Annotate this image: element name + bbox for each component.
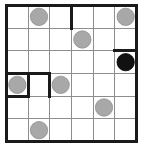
white-pearl-r4c1[interactable]: white pearl at row 4 column 1 bbox=[9, 76, 26, 93]
page-title: Masyu Grid Puzzle bbox=[0, 21, 1, 22]
black-pearl-r3c6[interactable]: black pearl at row 3 column 6 bbox=[117, 54, 134, 71]
pearls-layer[interactable]: white pearl at row 1 column 2white pearl… bbox=[5, 4, 138, 143]
white-pearl-r1c6[interactable]: white pearl at row 1 column 6 bbox=[117, 8, 134, 25]
white-pearl-r5c5[interactable]: white pearl at row 5 column 5 bbox=[95, 99, 112, 116]
white-pearl-r1c2[interactable]: white pearl at row 1 column 2 bbox=[30, 8, 47, 25]
puzzle-board[interactable]: vertical edge right of row 1 column 3hor… bbox=[5, 4, 138, 143]
white-pearl-r6c2[interactable]: white pearl at row 6 column 2 bbox=[30, 122, 47, 139]
white-pearl-r4c3[interactable]: white pearl at row 4 column 3 bbox=[52, 76, 69, 93]
puzzle-screenshot: Masyu Grid Puzzle vertical edge right of… bbox=[0, 0, 143, 150]
white-pearl-r2c4[interactable]: white pearl at row 2 column 4 bbox=[74, 31, 91, 48]
